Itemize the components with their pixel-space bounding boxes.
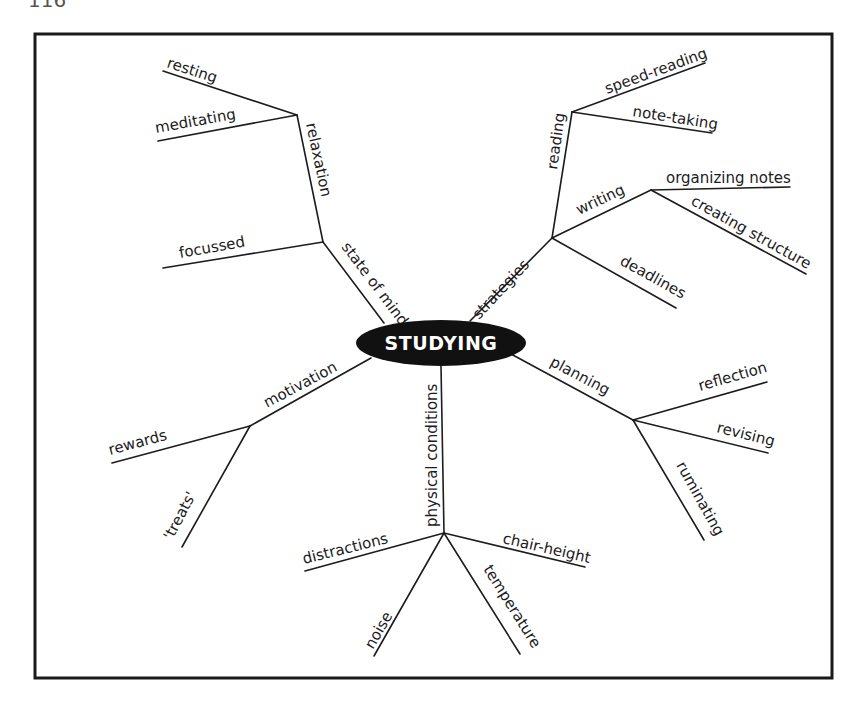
center-label: STUDYING bbox=[385, 332, 498, 354]
branch-planning: planning reflection revising ruminating bbox=[511, 353, 777, 540]
line-physical-conditions bbox=[441, 366, 444, 533]
label-rewards: rewards bbox=[106, 426, 169, 459]
label-physical-conditions: physical conditions bbox=[423, 383, 441, 527]
label-ruminating: ruminating bbox=[673, 458, 729, 539]
label-focussed: focussed bbox=[178, 233, 247, 262]
branch-physical-conditions: physical conditions distractions chair-h… bbox=[301, 366, 593, 656]
label-creating-structure: creating structure bbox=[688, 192, 814, 273]
label-motivation: motivation bbox=[260, 358, 340, 412]
line-treats bbox=[182, 426, 250, 547]
label-speed-reading: speed-reading bbox=[602, 44, 709, 98]
label-reflection: reflection bbox=[696, 358, 769, 395]
label-resting: resting bbox=[165, 54, 220, 87]
label-organizing-notes: organizing notes bbox=[666, 169, 791, 187]
label-writing: writing bbox=[573, 180, 627, 218]
line-creating-structure bbox=[651, 190, 806, 274]
label-strategies: strategies bbox=[469, 256, 533, 323]
label-reading: reading bbox=[543, 112, 569, 171]
branch-strategies: strategies reading speed-reading note-ta… bbox=[469, 44, 815, 323]
label-state-of-mind: state of mind bbox=[338, 239, 412, 330]
label-noise: noise bbox=[361, 608, 397, 652]
label-note-taking: note-taking bbox=[631, 102, 719, 133]
label-relaxation: relaxation bbox=[302, 121, 335, 198]
branch-state-of-mind: state of mind relaxation resting meditat… bbox=[154, 54, 413, 329]
center-node: STUDYING bbox=[356, 320, 526, 366]
label-chair-height: chair-height bbox=[501, 529, 592, 567]
label-meditating: meditating bbox=[154, 105, 238, 137]
mind-map-canvas: state of mind relaxation resting meditat… bbox=[0, 0, 864, 706]
label-revising: revising bbox=[715, 418, 777, 450]
line-organizing-notes bbox=[651, 187, 790, 190]
label-distractions: distractions bbox=[301, 529, 390, 568]
branch-motivation: motivation rewards 'treats' bbox=[106, 358, 371, 547]
label-treats: 'treats' bbox=[160, 488, 200, 542]
